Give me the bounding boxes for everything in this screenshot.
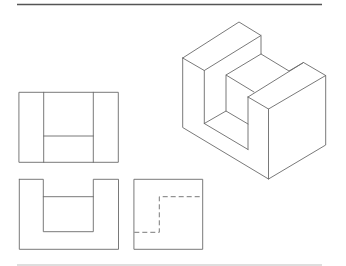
front-view-outline <box>19 179 118 249</box>
iso-step-top <box>226 54 261 92</box>
top-view <box>19 92 118 162</box>
iso-notch-floor-front <box>204 124 248 150</box>
iso-left-pillar-top <box>183 36 261 71</box>
front-view <box>19 179 118 249</box>
side-view-hidden-line <box>134 197 202 233</box>
iso-right-pillar-top <box>248 63 304 98</box>
iso-notch-floor <box>204 111 248 124</box>
top-view-outline <box>19 92 118 162</box>
iso-right-pillar-front-top <box>248 76 326 110</box>
drawing-canvas <box>0 0 346 266</box>
side-view <box>134 179 202 249</box>
side-view-outline <box>134 179 202 249</box>
isometric-view <box>183 22 326 179</box>
